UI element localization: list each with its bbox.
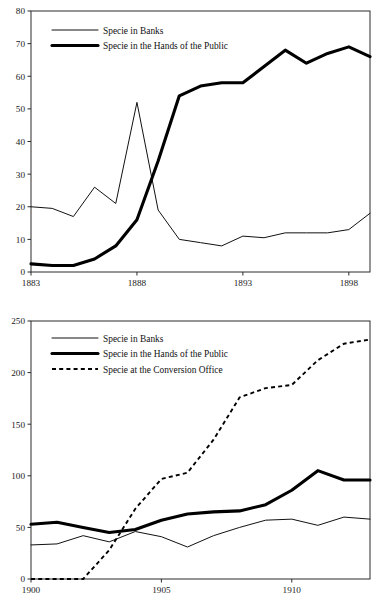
- legend-label: Specie in the Hands of the Public: [103, 349, 228, 359]
- x-tick-label: 1910: [283, 585, 302, 595]
- y-tick-label: 200: [11, 368, 25, 378]
- chart-panel-top: 010203040506070801883188818931898Specie …: [0, 0, 382, 292]
- y-tick-label: 50: [16, 104, 26, 114]
- series-line: [31, 471, 370, 533]
- x-tick-label: 1898: [340, 278, 359, 288]
- y-tick-label: 10: [16, 235, 26, 245]
- y-tick-label: 30: [16, 170, 26, 180]
- y-tick-label: 150: [11, 420, 25, 430]
- y-tick-label: 60: [16, 72, 26, 82]
- figure-specie-charts: 010203040506070801883188818931898Specie …: [0, 0, 382, 610]
- x-tick-label: 1888: [128, 278, 147, 288]
- line-chart-1883-1899: 010203040506070801883188818931898Specie …: [0, 0, 382, 292]
- legend-label: Specie in the Hands of the Public: [103, 41, 228, 51]
- series-line: [31, 102, 370, 246]
- y-tick-label: 0: [20, 574, 25, 584]
- y-tick-label: 50: [16, 523, 26, 533]
- x-tick-label: 1883: [22, 278, 41, 288]
- chart-panel-bottom: 050100150200250190019051910Specie in Ban…: [0, 292, 382, 610]
- legend-label: Specie in Banks: [103, 26, 164, 36]
- y-tick-label: 40: [16, 137, 26, 147]
- y-tick-label: 20: [16, 202, 26, 212]
- line-chart-1900-1913: 050100150200250190019051910Specie in Ban…: [0, 292, 382, 610]
- x-tick-label: 1900: [22, 585, 41, 595]
- series-line: [31, 517, 370, 547]
- y-tick-label: 100: [11, 471, 25, 481]
- x-tick-label: 1893: [234, 278, 253, 288]
- y-tick-label: 250: [11, 316, 25, 326]
- legend-label: Specie at the Conversion Office: [103, 365, 223, 375]
- series-line: [31, 340, 370, 579]
- y-tick-label: 70: [16, 39, 26, 49]
- y-tick-label: 80: [16, 6, 26, 16]
- legend-label: Specie in Banks: [103, 334, 164, 344]
- y-tick-label: 0: [20, 267, 25, 277]
- x-tick-label: 1905: [152, 585, 171, 595]
